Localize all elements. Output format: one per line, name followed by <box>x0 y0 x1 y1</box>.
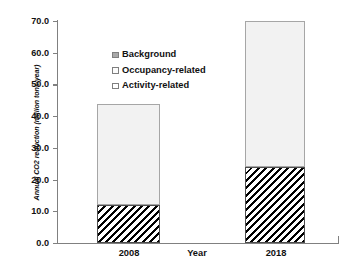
bar-chart: Annual CO2 reduction (million tons/year)… <box>0 0 362 277</box>
legend-label-background: Background <box>122 50 176 59</box>
y-tick-mark-40 <box>53 116 58 117</box>
x-tick-label-2018: 2018 <box>245 248 307 258</box>
bar-2008 <box>97 104 160 243</box>
legend-item-occupancy-related: Occupancy-related <box>112 63 206 79</box>
y-tick-mark-30 <box>53 148 58 149</box>
y-tick-label-0: 0.0 <box>9 238 49 248</box>
x-axis-title: Year <box>166 248 228 258</box>
y-tick-mark-70 <box>53 21 58 22</box>
legend-label-occupancy-related: Occupancy-related <box>122 66 206 75</box>
y-tick-label-40: 40.0 <box>9 111 49 121</box>
y-tick-mark-20 <box>53 180 58 181</box>
x-tick-label-2008: 2008 <box>98 248 160 258</box>
y-tick-mark-0 <box>53 243 58 244</box>
y-tick-label-50: 50.0 <box>9 79 49 89</box>
y-tick-label-20: 20.0 <box>9 175 49 185</box>
y-tick-mark-10 <box>53 211 58 212</box>
bar-2008-segment-activity-related <box>97 205 160 243</box>
legend-item-activity-related: Activity-related <box>112 78 206 94</box>
bar-2018-segment-activity-related <box>245 167 305 243</box>
y-axis-title: Annual CO2 reduction (million tons/year) <box>32 33 41 233</box>
y-tick-label-30: 30.0 <box>9 143 49 153</box>
bar-2008-segment-occupancy-related <box>97 104 160 205</box>
legend-label-activity-related: Activity-related <box>122 81 189 90</box>
legend-swatch-icon-background <box>112 52 119 59</box>
legend-item-background: Background <box>112 47 206 63</box>
y-tick-label-70: 70.0 <box>9 16 49 26</box>
bar-2018 <box>245 21 305 243</box>
legend: Background Occupancy-related Activity-re… <box>112 47 206 94</box>
y-tick-label-10: 10.0 <box>9 206 49 216</box>
bar-2018-segment-occupancy-related <box>245 21 305 167</box>
y-tick-label-60: 60.0 <box>9 48 49 58</box>
legend-swatch-icon-activity-related <box>112 83 119 90</box>
y-tick-mark-50 <box>53 84 58 85</box>
x-axis-end-tick <box>338 236 339 243</box>
legend-swatch-icon-occupancy-related <box>112 67 119 74</box>
y-tick-mark-60 <box>53 53 58 54</box>
